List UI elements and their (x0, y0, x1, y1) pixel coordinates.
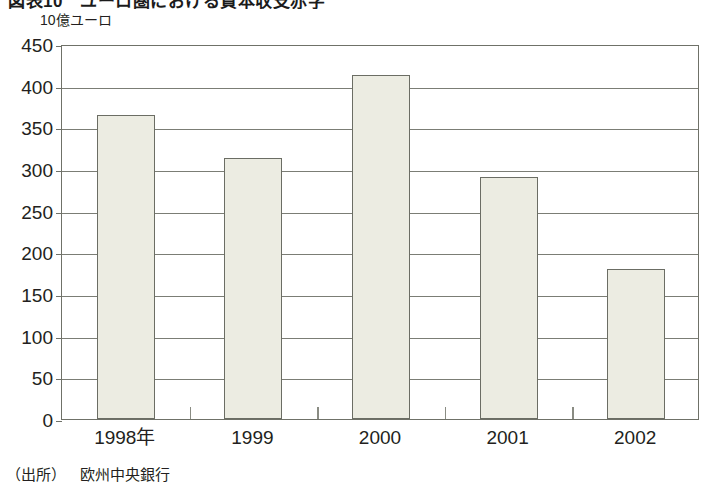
source-prefix: （出所） (6, 466, 66, 483)
y-axis-tick (56, 379, 62, 380)
y-axis-tick-label: 250 (9, 202, 53, 221)
y-axis-tick-label: 150 (9, 286, 53, 305)
y-axis-tick-label: 100 (9, 327, 53, 346)
y-axis-tick (56, 213, 62, 214)
bar-2002 (607, 269, 665, 419)
y-axis-tick-label: 300 (9, 161, 53, 180)
y-axis-tick (56, 254, 62, 255)
x-axis-tick-label: 1998年 (94, 428, 155, 447)
y-axis-tick (56, 171, 62, 172)
bar-2001 (480, 177, 538, 420)
y-axis-tick-label: 50 (9, 369, 53, 388)
y-axis-tick (56, 296, 62, 297)
x-axis-tick-label: 1999 (231, 428, 273, 447)
x-axis-tick-label: 2000 (359, 428, 401, 447)
bar-2000 (352, 75, 410, 419)
figure-heading: 図表10 ユーロ圏における資本収支赤字 (8, 0, 325, 9)
y-axis-tick (56, 338, 62, 339)
bar-1998年 (97, 115, 155, 419)
y-axis-unit-label: 10億ユーロ (40, 9, 112, 29)
source-organization: 欧州中央銀行 (80, 466, 170, 483)
y-axis-tick-label: 450 (9, 36, 53, 55)
x-axis-tick-label: 2001 (486, 428, 528, 447)
x-axis-minor-tick (445, 407, 447, 419)
x-axis-minor-tick (317, 407, 319, 419)
y-axis-tick (56, 421, 62, 422)
y-axis-tick-label: 0 (9, 411, 53, 430)
bar-1999 (224, 158, 282, 419)
x-axis-tick-labels: 1998年1999200020012002 (61, 428, 699, 458)
source-note: （出所）欧州中央銀行 (6, 463, 170, 484)
y-axis-tick (56, 88, 62, 89)
x-axis-minor-tick (572, 407, 574, 419)
x-axis-minor-tick (190, 407, 192, 419)
y-axis-tick-label: 400 (9, 77, 53, 96)
y-axis-tick (56, 46, 62, 47)
y-axis-tick (56, 129, 62, 130)
x-axis-tick-label: 2002 (614, 428, 656, 447)
y-axis-tick-labels: 050100150200250300350400450 (0, 45, 53, 420)
y-axis-tick-label: 200 (9, 244, 53, 263)
y-axis-tick-label: 350 (9, 119, 53, 138)
chart-plot-area (61, 45, 699, 420)
